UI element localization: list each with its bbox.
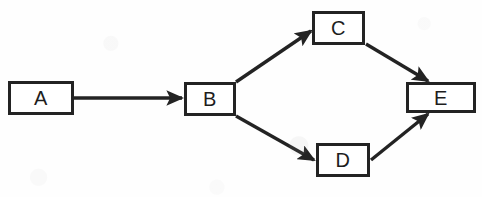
node-d-label: D — [336, 150, 351, 170]
node-a[interactable]: A — [8, 81, 74, 115]
edge-d-to-e — [371, 114, 428, 160]
diagram-canvas: A B C D E — [0, 0, 482, 197]
node-b-label: B — [203, 89, 217, 109]
node-e-label: E — [434, 88, 448, 108]
edge-b-to-c — [236, 31, 311, 82]
node-e[interactable]: E — [406, 82, 476, 113]
node-a-label: A — [34, 88, 48, 108]
edge-c-to-e — [366, 44, 428, 81]
edge-b-to-d — [236, 116, 314, 160]
node-c[interactable]: C — [312, 11, 365, 45]
node-d[interactable]: D — [316, 143, 370, 177]
node-b[interactable]: B — [184, 82, 236, 116]
node-c-label: C — [331, 18, 346, 38]
